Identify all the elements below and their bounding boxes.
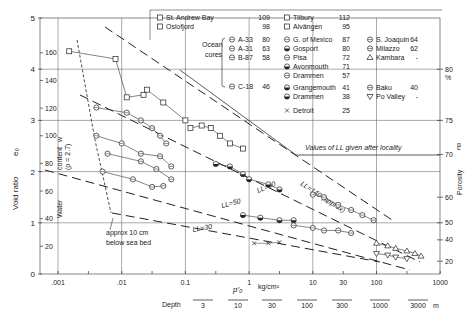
legend-label: A-31: [238, 45, 253, 52]
legend-ll: 87: [342, 36, 350, 43]
water-content-tick: 120: [45, 105, 57, 112]
ll50-label: LL=50: [220, 197, 241, 209]
legend-ll: 109: [258, 14, 270, 21]
x-symbol: p′₀: [232, 285, 243, 294]
porosity-tick: 50: [445, 219, 453, 226]
void-ratio-chart: .001.010.1110301001000012345204060801001…: [0, 0, 474, 325]
legend-ll: 63: [262, 45, 270, 52]
legend-label: G. of Mexico: [293, 36, 332, 43]
porosity-tick: 75: [445, 117, 453, 124]
water-title: Water: [56, 199, 63, 218]
legend-label: Po Valley: [376, 93, 406, 101]
legend-item: Baku40: [367, 84, 418, 91]
legend-label: Kambara: [376, 54, 405, 61]
depth-tick: 300: [336, 302, 348, 309]
x-tick-label: 30: [339, 279, 347, 286]
y-tick-label: 3: [31, 116, 36, 125]
legend-label: Avonmouth: [293, 63, 328, 70]
corner-c: c: [457, 144, 461, 151]
legend-item: Gosport80: [284, 45, 350, 53]
legend-item: A-3163: [229, 45, 270, 52]
legend-ll: 95: [342, 23, 350, 30]
legend-ll: 38: [342, 93, 350, 100]
legend-label: B-87: [238, 54, 253, 61]
legend-item: Drammen38: [284, 93, 350, 100]
ocean-cores-label: Ocean: [202, 41, 223, 48]
legend-item: A-3380: [229, 36, 270, 43]
porosity-tick: 40: [445, 236, 453, 243]
water-content-tick: 20: [45, 243, 53, 250]
y-tick-label: 1: [31, 219, 36, 228]
legend-item: Drammen57: [284, 72, 350, 79]
legend-ll: 98: [262, 23, 270, 30]
legend-label: Grangemouth: [293, 84, 336, 92]
porosity-tick: 60: [445, 194, 453, 201]
depth-tick: 3000: [410, 302, 426, 309]
ll-note: Values of LL given after locality: [305, 144, 402, 152]
legend-ll: 72: [342, 54, 350, 61]
x-tick-label: 1: [247, 279, 251, 286]
legend-item: G. of Mexico87: [284, 36, 350, 43]
legend: St. Andrew Bay109Oslofjord98A-3380A-3163…: [150, 10, 442, 114]
legend-item: Detroit25: [285, 107, 350, 114]
legend-label: Milazzo: [376, 45, 400, 52]
series-oslofjord: [145, 87, 188, 123]
legend-ll: 40: [410, 84, 418, 91]
water-content-tick: 40: [45, 215, 53, 222]
y-tick-label: 2: [31, 168, 36, 177]
depth-tick: 30: [268, 302, 276, 309]
legend-label: Drammen: [293, 72, 324, 79]
water-density: (ρ = 2.7): [64, 144, 72, 170]
depth-label: Depth: [162, 301, 181, 309]
y-tick-label: 0: [31, 270, 36, 279]
legend-label: Alvängen: [293, 23, 322, 31]
legend-item: Alvängen95: [285, 23, 351, 31]
legend-ll: 58: [262, 54, 270, 61]
ll-reference-lines: LL=140 (approx)LL=90LL=50LL=30Values of …: [45, 27, 461, 270]
legend-item: B-8758: [229, 54, 270, 61]
legend-ll: 71: [342, 63, 350, 70]
legend-item: Po Valley-: [367, 93, 419, 101]
x-tick-label: 0.1: [181, 279, 191, 286]
legend-item: Oslofjord98: [158, 23, 271, 31]
series-ocean-cores-lower-: [94, 133, 174, 169]
depth-tick: 100: [301, 302, 313, 309]
porosity-tick: 80: [445, 66, 453, 73]
porosity-tick: 70: [445, 151, 453, 158]
seabed-note-2: below sea bed: [106, 239, 151, 246]
depth-tick: 1000: [372, 302, 388, 309]
legend-label: Gosport: [293, 45, 318, 53]
legend-ll: 80: [262, 36, 270, 43]
legend-item: S. Joaquin64: [367, 36, 418, 44]
y-axis-symbol: e₀: [11, 148, 20, 156]
series-tilbury-alv-ngen: [188, 123, 245, 151]
series-ocean-cores-low-3-: [100, 169, 166, 190]
seabed-note-1: approx 10 cm: [106, 229, 149, 237]
legend-item: Milazzo62: [367, 45, 418, 52]
legend-item: Kambara-: [367, 54, 419, 61]
water-title-2: content: [56, 147, 63, 170]
x-tick-label: .001: [51, 279, 65, 286]
legend-item: C-1846: [229, 83, 270, 90]
water-content-tick: 160: [45, 49, 57, 56]
water-content-tick: 140: [45, 77, 57, 84]
water-content-tick: 60: [45, 188, 53, 195]
legend-ll: 41: [342, 84, 350, 91]
legend-label: Baku: [376, 84, 392, 91]
porosity-pct: %: [445, 74, 451, 81]
legend-label: C-18: [238, 83, 253, 90]
x-tick-label: 100: [371, 279, 383, 286]
legend-ll: 64: [410, 36, 418, 43]
x-unit: kg/cm²: [258, 283, 280, 291]
legend-ll: -: [416, 54, 419, 61]
series-grangemouth-drammen: [240, 213, 296, 223]
legend-ll: -: [416, 93, 419, 100]
legend-label: Pisa: [293, 54, 307, 61]
x-tick-label: 10: [309, 279, 317, 286]
legend-ll: 46: [262, 83, 270, 90]
ocean-cores-label-2: cores: [205, 51, 223, 58]
legend-label: A-33: [238, 36, 253, 43]
legend-ll: 62: [410, 45, 418, 52]
y-axis-title: Void ratio: [11, 176, 20, 210]
legend-item: Pisa72: [284, 54, 350, 61]
